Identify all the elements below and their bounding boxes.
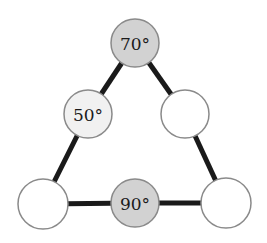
node-bottom-right xyxy=(201,178,251,228)
node-bottom-mid: 90° xyxy=(111,179,159,227)
circle-bottom-right xyxy=(201,178,251,228)
node-right-mid xyxy=(161,90,209,138)
angle-label-bottom-mid: 90° xyxy=(120,194,150,214)
node-bottom-left xyxy=(18,179,68,229)
node-left-mid: 50° xyxy=(64,90,112,138)
angle-triangle-diagram: 70°50°90° xyxy=(0,0,267,243)
node-top: 70° xyxy=(111,19,159,67)
nodes: 70°50°90° xyxy=(18,19,251,229)
circle-right-mid xyxy=(161,90,209,138)
angle-label-top: 70° xyxy=(120,34,150,54)
circle-bottom-left xyxy=(18,179,68,229)
angle-label-left-mid: 50° xyxy=(73,105,103,125)
